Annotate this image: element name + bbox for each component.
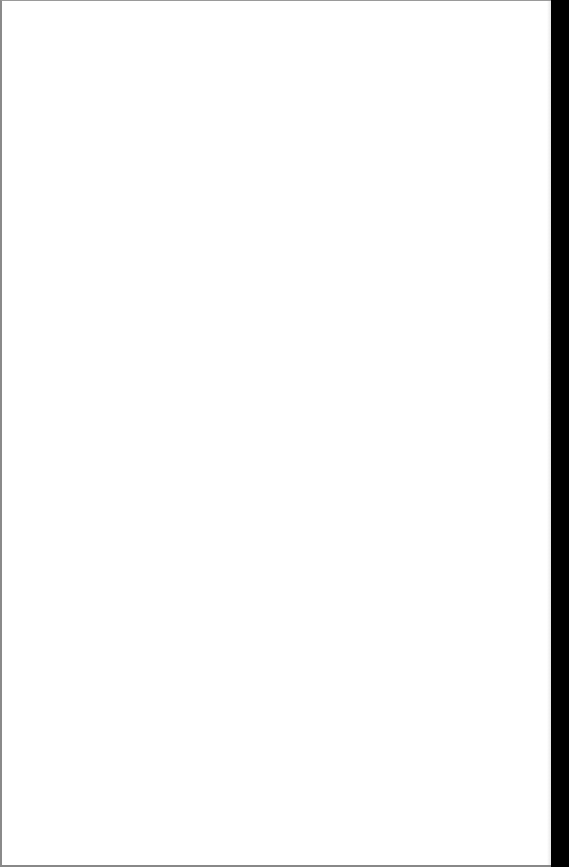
scanner-black-border [551, 0, 569, 867]
page-content [42, 41, 511, 825]
blank-page [0, 0, 551, 867]
